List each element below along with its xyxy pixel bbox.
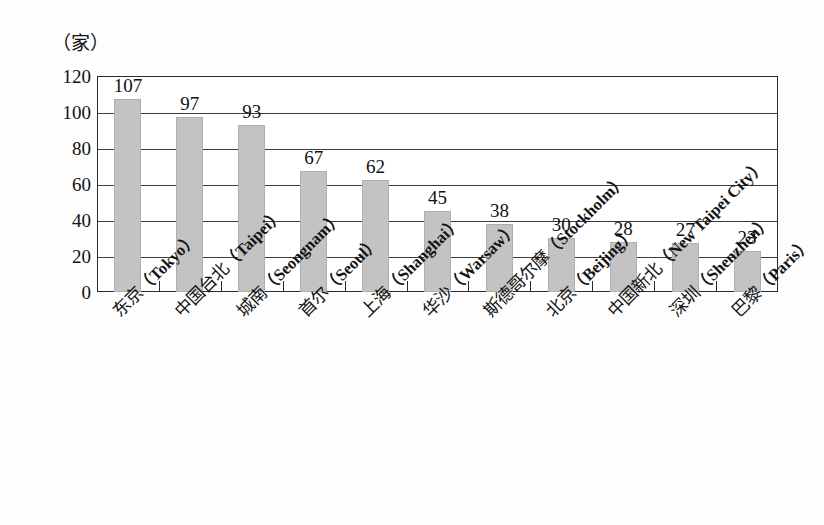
bar-value-label: 45 (408, 188, 468, 207)
y-axis-tick-labels: 020406080100120 (43, 76, 91, 292)
y-axis-tick-label: 40 (45, 211, 91, 230)
bar[interactable] (238, 125, 265, 292)
x-axis-category-labels: 东京（Tokyo）中国台北（Taipei）城南（Seongnam）首尔（Seou… (0, 292, 824, 525)
y-axis-unit-label: （家） (52, 28, 109, 55)
y-axis-tick-label: 80 (45, 139, 91, 158)
bar-value-label: 97 (160, 94, 220, 113)
chart-page: （家） 020406080100120 10797936762453830282… (0, 0, 824, 525)
bar-value-label: 62 (346, 157, 406, 176)
y-axis-tick-label: 60 (45, 175, 91, 194)
bar[interactable] (176, 117, 203, 292)
bar-value-label: 93 (222, 102, 282, 121)
y-axis-tick-label: 20 (45, 247, 91, 266)
y-axis-tick-label: 100 (45, 103, 91, 122)
bar-value-label: 67 (284, 148, 344, 167)
bar-value-label: 107 (98, 76, 158, 95)
bar-value-label: 38 (469, 201, 529, 220)
y-axis-tick-label: 120 (45, 67, 91, 86)
bar[interactable] (114, 99, 141, 292)
